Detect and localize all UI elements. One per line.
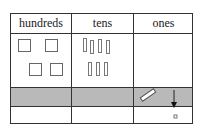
tilted-ten-rod-icon: [140, 89, 155, 101]
hundred-block: [18, 39, 31, 52]
ten-rod: [90, 40, 94, 54]
hundred-block: [45, 39, 58, 52]
hundred-block: [50, 63, 63, 76]
header-tens: tens: [72, 14, 133, 33]
ten-rod: [106, 40, 110, 54]
ten-rod: [104, 62, 108, 76]
header-ones: ones: [134, 14, 193, 33]
row-divider: [11, 33, 192, 34]
regroup-illustration: [134, 87, 193, 125]
hundred-block: [29, 63, 42, 76]
ten-rod: [98, 39, 102, 53]
one-cube-icon: [174, 115, 177, 118]
ten-rod: [83, 38, 87, 52]
ten-rod: [96, 62, 100, 76]
header-hundreds: hundreds: [11, 14, 71, 33]
ten-rod: [88, 62, 92, 76]
place-value-table: hundreds tens ones: [10, 13, 193, 124]
down-arrow-icon: [171, 90, 177, 108]
